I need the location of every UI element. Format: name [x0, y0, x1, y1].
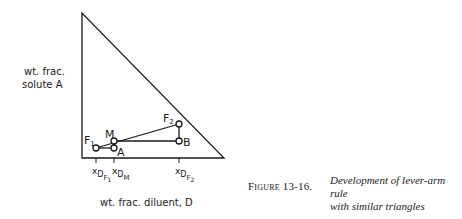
label-A: A [117, 146, 125, 159]
y-axis-label-line2: solute A [22, 79, 63, 90]
figure-label: Figure 13-16. [248, 180, 312, 193]
caption-line-2: with similar triangles [330, 200, 462, 213]
label-F1: F1 [84, 134, 95, 148]
point-F2 [176, 121, 182, 127]
y-axis-label-line1: wt. frac. [24, 66, 65, 77]
caption-line-1: Development of lever-arm rule [330, 174, 462, 200]
label-B: B [183, 136, 191, 149]
x-axis-label: wt. frac. diluent, D [100, 197, 193, 208]
ternary-triangle [82, 13, 224, 158]
point-B [176, 138, 182, 144]
tick-label-xDF1: xDF1 [92, 166, 112, 183]
tick-label-xDF2: xDF2 [175, 166, 195, 183]
label-M: M [105, 128, 115, 141]
tick-label-xDM: xDM [112, 166, 130, 182]
caption-description: Development of lever-arm rule with simil… [330, 174, 462, 213]
label-F2: F2 [163, 112, 174, 126]
